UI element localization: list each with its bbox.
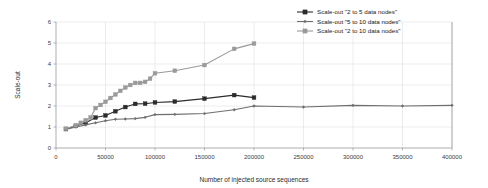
legend-item-1[interactable]: Scale-out "2 to 5 data nodes" bbox=[297, 8, 397, 15]
data-point-marker bbox=[203, 112, 206, 115]
data-point-marker bbox=[153, 101, 157, 105]
legend-marker-icon bbox=[303, 29, 307, 33]
data-point-marker bbox=[203, 97, 207, 101]
data-point-marker bbox=[99, 103, 103, 107]
legend-marker-icon bbox=[303, 20, 306, 23]
x-tick-label: 250000 bbox=[293, 154, 314, 160]
data-point-marker bbox=[154, 113, 157, 116]
x-tick-label: 400000 bbox=[442, 154, 463, 160]
data-point-marker bbox=[79, 121, 83, 125]
x-tick-label: 350000 bbox=[392, 154, 413, 160]
legend: Scale-out "2 to 5 data nodes"Scale-out "… bbox=[297, 8, 401, 34]
data-point-marker bbox=[253, 105, 256, 108]
x-tick-label: 50000 bbox=[97, 154, 114, 160]
data-point-marker bbox=[173, 100, 177, 104]
x-tick-labels: 0500001000001500002000002500003000003500… bbox=[54, 154, 462, 160]
data-point-marker bbox=[133, 81, 137, 85]
data-point-marker bbox=[74, 123, 78, 127]
scale-out-line-chart: 0500001000001500002000002500003000003500… bbox=[0, 0, 488, 188]
data-point-marker bbox=[89, 116, 93, 120]
data-point-marker bbox=[104, 119, 107, 122]
data-point-marker bbox=[84, 118, 88, 122]
y-tick-label: 4 bbox=[48, 61, 52, 67]
data-point-marker bbox=[94, 116, 98, 120]
data-point-marker bbox=[114, 93, 118, 97]
data-point-marker bbox=[123, 86, 127, 90]
data-point-marker bbox=[104, 114, 108, 118]
legend-marker-icon bbox=[303, 10, 307, 14]
x-tick-label: 100000 bbox=[145, 154, 166, 160]
data-point-marker bbox=[203, 63, 207, 67]
y-tick-labels: 0123456 bbox=[48, 19, 52, 151]
y-tick-label: 6 bbox=[48, 19, 52, 25]
x-tick-label: 300000 bbox=[343, 154, 364, 160]
data-point-marker bbox=[148, 77, 152, 81]
x-axis-title: Number of injected source sequences bbox=[199, 176, 309, 184]
data-point-marker bbox=[109, 96, 113, 100]
data-point-marker bbox=[94, 121, 97, 124]
data-point-marker bbox=[124, 118, 127, 121]
data-point-marker bbox=[128, 83, 132, 87]
data-point-marker bbox=[143, 102, 147, 106]
data-point-marker bbox=[232, 93, 236, 97]
data-point-marker bbox=[118, 89, 122, 93]
data-point-marker bbox=[138, 81, 142, 85]
data-point-marker bbox=[401, 105, 404, 108]
data-point-marker bbox=[153, 71, 157, 75]
data-point-marker bbox=[252, 96, 256, 100]
legend-label: Scale-out "5 to 10 data nodes" bbox=[317, 18, 401, 25]
data-point-marker bbox=[114, 118, 117, 121]
legend-label: Scale-out "2 to 5 data nodes" bbox=[317, 8, 397, 15]
data-point-marker bbox=[173, 113, 176, 116]
data-point-marker bbox=[232, 47, 236, 51]
data-point-marker bbox=[173, 69, 177, 73]
axes bbox=[54, 22, 453, 151]
data-point-marker bbox=[352, 104, 355, 107]
data-point-marker bbox=[143, 80, 147, 84]
data-point-marker bbox=[94, 106, 98, 110]
data-point-marker bbox=[64, 127, 68, 131]
series-1 bbox=[64, 93, 256, 131]
data-point-marker bbox=[144, 116, 147, 119]
data-point-marker bbox=[133, 102, 137, 106]
x-tick-label: 150000 bbox=[194, 154, 215, 160]
data-point-marker bbox=[252, 42, 256, 46]
series-3 bbox=[64, 42, 256, 131]
data-point-marker bbox=[104, 100, 108, 104]
data-point-marker bbox=[451, 104, 454, 107]
legend-label: Scale-out "2 to 10 data nodes" bbox=[317, 27, 401, 34]
y-tick-label: 2 bbox=[48, 103, 52, 109]
data-series bbox=[64, 42, 453, 131]
y-tick-label: 0 bbox=[48, 145, 52, 151]
x-tick-label: 0 bbox=[54, 154, 58, 160]
legend-item-3[interactable]: Scale-out "2 to 10 data nodes" bbox=[297, 27, 401, 34]
legend-item-2[interactable]: Scale-out "5 to 10 data nodes" bbox=[297, 18, 401, 25]
chart-canvas: 0500001000001500002000002500003000003500… bbox=[0, 0, 488, 188]
data-point-marker bbox=[233, 108, 236, 111]
data-point-marker bbox=[114, 109, 118, 113]
y-tick-label: 1 bbox=[48, 124, 52, 130]
x-tick-label: 200000 bbox=[244, 154, 265, 160]
y-tick-label: 5 bbox=[48, 40, 52, 46]
data-point-marker bbox=[123, 105, 127, 109]
gridlines bbox=[56, 22, 452, 148]
y-tick-label: 3 bbox=[48, 82, 52, 88]
data-point-marker bbox=[134, 117, 137, 120]
y-axis-title: Scale-out bbox=[14, 71, 21, 99]
